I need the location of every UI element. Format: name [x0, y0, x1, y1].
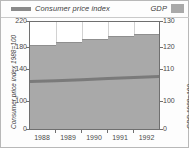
xtick-1988: 1988 [29, 134, 55, 141]
xtickmark-3 [107, 130, 108, 133]
plot-frame [29, 21, 160, 130]
left-tick-220: 220 [3, 17, 27, 24]
chart-legend: Consumer price index GDP [1, 1, 189, 18]
tickmark-right-0 [160, 129, 163, 130]
right-tick-130: 130 [163, 17, 175, 24]
line-swatch-icon [11, 7, 31, 11]
legend-label-gdp: GDP [150, 4, 167, 13]
right-tick-100: 100 [163, 97, 175, 104]
xtick-1989: 1989 [55, 134, 81, 141]
cpi-line-series [30, 22, 160, 130]
tickmark-right-110 [160, 69, 163, 70]
right-tick-0: 0 [163, 125, 167, 132]
xtickmark-2 [81, 130, 82, 133]
chart-container: Consumer price index GDP Consumer price … [0, 0, 189, 148]
legend-item-gdp: GDP [150, 4, 184, 13]
right-tick-120: 120 [163, 43, 175, 50]
legend-label-cpi: Consumer price index [35, 4, 110, 13]
cpi-line-path [30, 77, 160, 82]
tickmark-right-130 [160, 21, 163, 22]
box-swatch-icon [171, 4, 184, 13]
tickmark-right-120 [160, 47, 163, 48]
left-tick-140: 140 [3, 65, 27, 72]
xtick-1990: 1990 [81, 134, 107, 141]
left-tick-180: 180 [3, 43, 27, 50]
left-tick-100: 100 [3, 97, 27, 104]
tickmark-right-100 [160, 101, 163, 102]
right-axis-title: GDP 1988=100 [186, 84, 189, 129]
xtickmark-4 [133, 130, 134, 133]
xtick-1992: 1992 [133, 134, 160, 141]
xtickmark-1 [55, 130, 56, 133]
plot-area [29, 21, 160, 130]
right-tick-110: 110 [163, 65, 174, 72]
legend-separator [1, 17, 189, 18]
left-tick-0: 0 [3, 125, 27, 132]
legend-item-cpi: Consumer price index [11, 4, 110, 13]
xtick-1991: 1991 [107, 134, 133, 141]
